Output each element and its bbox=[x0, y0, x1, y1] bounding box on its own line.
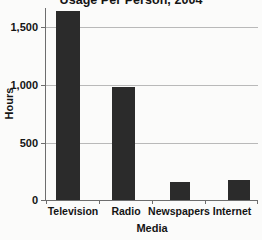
bar-internet bbox=[228, 180, 250, 200]
y-tick-label-500: 500 bbox=[0, 138, 38, 149]
y-tick-1000 bbox=[41, 85, 46, 86]
x-tick-0 bbox=[46, 200, 47, 204]
x-axis-title: Media bbox=[46, 223, 258, 234]
y-tick-1500 bbox=[41, 27, 46, 28]
y-tick-label-1500: 1,500 bbox=[0, 22, 38, 33]
y-axis-title: Hours bbox=[4, 74, 15, 134]
plot-area bbox=[46, 8, 258, 200]
bar-radio bbox=[112, 87, 135, 200]
bar-chart-figure: Usage Per Person, 2004 0 500 1,000 1,500… bbox=[0, 0, 262, 240]
x-tick-1 bbox=[99, 200, 100, 204]
bar-newspapers bbox=[170, 182, 190, 200]
x-tick-2 bbox=[152, 200, 153, 204]
bar-television bbox=[56, 11, 80, 200]
y-tick-label-0: 0 bbox=[0, 195, 38, 206]
x-category-label-internet: Internet bbox=[185, 206, 262, 217]
chart-title: Usage Per Person, 2004 bbox=[0, 0, 262, 7]
x-tick-3 bbox=[205, 200, 206, 204]
x-tick-4 bbox=[257, 200, 258, 204]
y-axis-line bbox=[45, 8, 46, 200]
y-tick-500 bbox=[41, 143, 46, 144]
